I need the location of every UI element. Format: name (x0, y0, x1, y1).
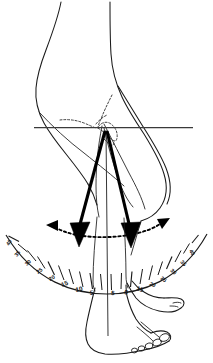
left-rotation-vector (70, 131, 105, 247)
left-foot-toes (131, 322, 170, 353)
protractor-arc-outer (6, 234, 207, 294)
left-arc-arrowhead (46, 220, 58, 231)
right-foot-outline (127, 281, 184, 312)
left-leg-outline (36, 2, 97, 205)
scale-label-right-25: 25 (159, 275, 167, 283)
goniometer-scale: 40 35 30 25 20 15 10 5 5 0 15 20 25 30 3… (5, 234, 207, 296)
left-foot-outline (86, 285, 171, 354)
right-rotation-vector (107, 131, 141, 248)
scale-label-right-5: 5 (111, 289, 115, 296)
scale-label-left-25: 25 (35, 266, 43, 274)
scale-label-left-40: 40 (5, 238, 13, 246)
protractor-ticks (9, 235, 199, 290)
scale-label-right-20: 20 (149, 281, 157, 289)
scale-label-right-40: 40 (188, 248, 196, 256)
protractor-left-labels: 40 35 30 25 20 15 10 5 (5, 238, 94, 296)
protractor-right-labels: 5 0 15 20 25 30 35 40 (111, 248, 196, 296)
figure-root: 40 35 30 25 20 15 10 5 5 0 15 20 25 30 3… (0, 0, 213, 363)
scale-label-left-20: 20 (48, 274, 56, 282)
scale-label-right-35: 35 (179, 259, 187, 267)
rotation-arc (46, 218, 170, 237)
right-arc-arrowhead (157, 218, 170, 229)
scale-label-left-35: 35 (13, 249, 21, 257)
hip-rotation-diagram: 40 35 30 25 20 15 10 5 5 0 15 20 25 30 3… (0, 0, 213, 363)
right-leg-outline (104, 2, 170, 221)
scale-label-left-15: 15 (60, 279, 69, 288)
vertical-plumb-line (106, 130, 108, 336)
